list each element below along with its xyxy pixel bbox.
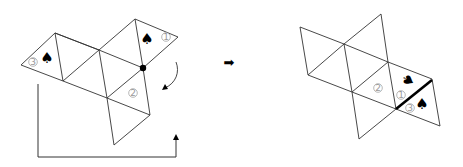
pivot-dot xyxy=(140,65,146,71)
curved-clockwise-arrow-icon xyxy=(162,62,178,90)
right-net-edges xyxy=(300,14,440,139)
svg-text:3: 3 xyxy=(30,57,36,67)
left-net: 1 2 3 ♠ ♠ xyxy=(21,19,179,157)
label-face-1: 1 xyxy=(397,90,406,100)
label-face-1: 1 xyxy=(162,32,171,42)
right-net: 2 1 3 ♠ ♠ xyxy=(300,14,440,139)
move-bracket-arrow-icon xyxy=(38,84,179,157)
left-net-edges xyxy=(21,19,178,145)
folding-net-diagram: 1 2 3 ♠ ♠ ➡ xyxy=(0,0,463,167)
svg-text:3: 3 xyxy=(407,103,413,113)
label-face-2: 2 xyxy=(129,88,138,98)
label-face-2: 2 xyxy=(374,83,383,93)
label-face-3: 3 xyxy=(29,57,38,67)
svg-text:2: 2 xyxy=(375,83,381,93)
diagram-canvas: 1 2 3 ♠ ♠ ➡ xyxy=(0,0,463,167)
spade-icon: ♠ xyxy=(415,95,428,113)
spade-icon: ♠ xyxy=(40,49,53,67)
label-face-3: 3 xyxy=(406,103,415,113)
right-arrow-icon: ➡ xyxy=(224,55,235,70)
svg-text:1: 1 xyxy=(398,90,404,100)
spade-icon: ♠ xyxy=(140,30,153,48)
svg-text:1: 1 xyxy=(163,32,169,42)
svg-text:2: 2 xyxy=(130,88,136,98)
